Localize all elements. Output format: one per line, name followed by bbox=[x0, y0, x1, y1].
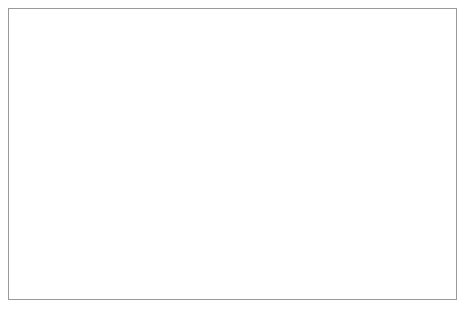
chart-container: 34036038040042044046005101520max_depthRM… bbox=[0, 0, 466, 310]
figure-frame bbox=[8, 8, 457, 300]
